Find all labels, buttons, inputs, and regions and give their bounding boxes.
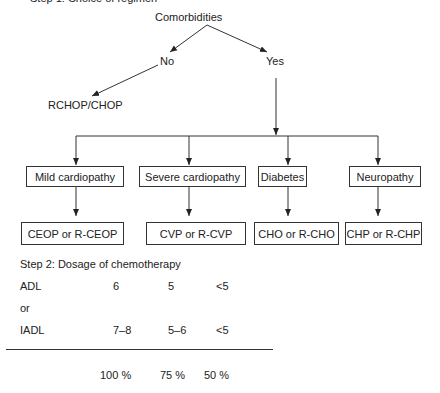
no-result-regimen: RCHOP/CHOP [48, 99, 123, 112]
condition-severe-cardiopathy: Severe cardiopathy [139, 166, 246, 187]
branch-no-label: No [160, 55, 174, 68]
dose-100: 100 % [100, 369, 131, 382]
adl-label: ADL [20, 280, 41, 293]
regimen-chp: CHP or R-CHP [345, 222, 422, 245]
branch-yes-label: Yes [266, 55, 284, 68]
adl-value-full: 6 [113, 280, 119, 293]
or-label: or [20, 302, 30, 315]
iadl-value-full: 7–8 [113, 324, 131, 337]
dose-75: 75 % [160, 369, 185, 382]
partial-step1-title: Step 1: Choice of regimen [30, 0, 157, 5]
adl-value-75: 5 [168, 280, 174, 293]
condition-label: Mild cardiopathy [35, 171, 115, 183]
iadl-value-50: <5 [216, 324, 229, 337]
regimen-ceop: CEOP or R-CEOP [21, 222, 124, 245]
condition-diabetes: Diabetes [258, 166, 307, 187]
condition-label: Neuropathy [357, 171, 414, 183]
divider-line [6, 349, 273, 350]
regimen-label: CEOP or R-CEOP [28, 228, 118, 240]
iadl-label: IADL [20, 324, 44, 337]
dose-50: 50 % [204, 369, 229, 382]
regimen-label: CHO or R-CHO [258, 228, 334, 240]
condition-mild-cardiopathy: Mild cardiopathy [26, 166, 124, 187]
condition-neuropathy: Neuropathy [349, 166, 421, 187]
dosage-title: Step 2: Dosage of chemotherapy [20, 258, 181, 271]
regimen-label: CHP or R-CHP [347, 228, 421, 240]
condition-label: Severe cardiopathy [145, 171, 240, 183]
adl-value-50: <5 [216, 280, 229, 293]
regimen-label: CVP or R-CVP [160, 228, 233, 240]
root-node-comorbidities: Comorbidities [155, 11, 222, 24]
regimen-cvp: CVP or R-CVP [146, 222, 246, 245]
iadl-value-75: 5–6 [168, 324, 186, 337]
regimen-cho: CHO or R-CHO [254, 222, 339, 245]
condition-label: Diabetes [261, 171, 304, 183]
